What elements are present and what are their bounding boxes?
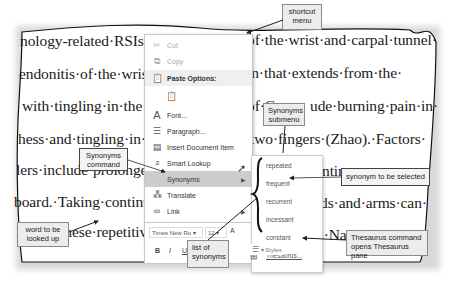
font-name-box[interactable]: Times New Ro ▾	[149, 227, 203, 238]
doc-line-right: in·that·extends·from·the·	[247, 64, 402, 82]
styles-button[interactable]: ☰ ▾ Styles	[250, 244, 284, 255]
submenu-arrow-icon: ▶	[241, 208, 246, 215]
search-icon: ⌕	[150, 158, 164, 169]
callout-list-of-synonyms: list of synonyms	[187, 240, 229, 268]
synonym-item[interactable]: constant	[266, 234, 291, 241]
synonym-item[interactable]: recurrent	[266, 198, 292, 205]
doc-line-right: two·fingers·(Zhao).·Factors·	[250, 130, 426, 148]
menu-item-copy[interactable]: ⧉ Copy	[145, 53, 252, 69]
synonym-item[interactable]: repeated	[266, 162, 292, 169]
doc-line: board.·Taking·continual	[14, 193, 162, 211]
font-size-box[interactable]: 12 ▾	[205, 227, 227, 238]
menu-item-synonyms[interactable]: Synonyms ▶	[145, 171, 252, 187]
menu-item-label: Font...	[167, 112, 187, 119]
doc-line: hess·and·tingling·in·the	[18, 130, 165, 148]
doc-line: nology-related·RSIs·ir	[20, 32, 158, 50]
mouse-pointer-icon: ➚	[237, 162, 246, 175]
menu-header-paste-options: 📋 Paste Options:	[145, 70, 252, 86]
callout-shortcut-menu: shortcut menu	[282, 4, 322, 30]
menu-item-label: Smart Lookup	[167, 160, 211, 167]
doc-line-right: ds·and·arms·can·	[320, 194, 427, 212]
menu-item-link[interactable]: ∞ Link ▶	[145, 203, 252, 219]
paste-keep-text-only-button[interactable]: 📋	[145, 87, 252, 105]
menu-item-label: Insert Document Item	[167, 144, 234, 151]
callout-synonym-selected: synonym to be selected	[341, 168, 430, 186]
menu-item-label: Paste Options:	[167, 75, 216, 82]
menu-item-font[interactable]: A Font...	[145, 107, 252, 123]
menu-item-translate[interactable]: ⁂ Translate	[145, 187, 252, 203]
menu-item-label: Copy	[167, 58, 183, 65]
menu-item-cut[interactable]: ✂ Cut	[145, 37, 252, 53]
menu-item-label: Translate	[167, 192, 196, 199]
styles-label: Styles	[265, 247, 281, 253]
callout-synonyms-command: Synonyms command	[79, 148, 128, 171]
menu-item-smart-lookup[interactable]: ⌕ Smart Lookup	[145, 155, 252, 171]
paste-keep-text-icon: 📋	[164, 91, 178, 101]
bullets-icon: ☰	[252, 245, 259, 254]
bold-button[interactable]: B	[155, 247, 160, 254]
doc-line: with·tingling·in·the·fir	[22, 97, 162, 115]
doc-line-right: ude·burning·pain·in·	[310, 97, 438, 115]
menu-item-paragraph[interactable]: ☰ Paragraph...	[145, 123, 252, 139]
callout-word-looked-up: word to be looked up	[17, 222, 69, 247]
doc-line-right: of·the·wrist·and·carpal·tunnel·	[247, 31, 437, 49]
menu-item-insert-document-item[interactable]: ▤ Insert Document Item	[145, 139, 252, 155]
copy-icon: ⧉	[150, 56, 164, 67]
italic-button[interactable]: I	[169, 247, 171, 254]
submenu-arrow-icon: ▶	[241, 176, 246, 183]
font-size-value: 12	[208, 230, 215, 236]
font-icon: A	[150, 109, 164, 121]
callout-thesaurus-command: Thesaurus command opens Thesaurus pane	[346, 230, 428, 256]
grow-font-button[interactable]: A	[230, 227, 235, 234]
font-name-value: Times New Ro	[152, 230, 191, 236]
translate-icon: ⁂	[150, 190, 164, 200]
synonym-item-selected[interactable]: frequent	[266, 180, 290, 187]
synonyms-submenu: repeated frequent recurrent incessant co…	[251, 155, 323, 273]
menu-item-label: Link	[167, 208, 180, 215]
synonym-item[interactable]: incessant	[266, 216, 293, 223]
shortcut-menu: ✂ Cut ⧉ Copy 📋 Paste Options: 📋 A Font..…	[144, 34, 253, 252]
menu-item-label: Synonyms	[167, 176, 200, 183]
paste-icon: 📋	[150, 73, 164, 83]
scissors-icon: ✂	[150, 40, 164, 50]
menu-item-label: Paragraph...	[167, 128, 206, 135]
paragraph-icon: ☰	[150, 126, 164, 136]
insert-document-icon: ▤	[150, 142, 164, 152]
menu-item-label: Cut	[167, 42, 178, 49]
link-icon: ∞	[150, 206, 164, 216]
callout-synonyms-submenu: Synonyms submenu	[263, 103, 305, 126]
